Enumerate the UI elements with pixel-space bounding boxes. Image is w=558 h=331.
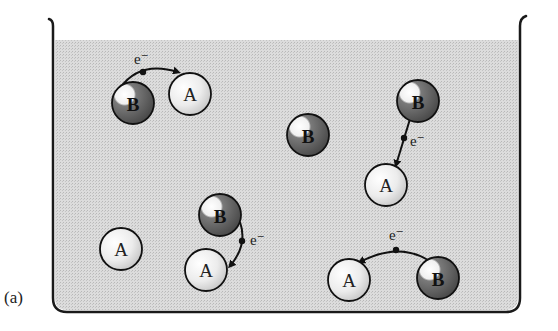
svg-text:B: B — [432, 269, 445, 290]
svg-text:A: A — [199, 260, 213, 281]
particle-B: B — [397, 80, 439, 122]
particle-B: B — [199, 194, 241, 236]
electron-label: e⁻ — [410, 133, 425, 149]
svg-text:B: B — [127, 94, 140, 115]
electron-label: e⁻ — [134, 51, 149, 67]
svg-text:B: B — [412, 92, 425, 113]
svg-text:A: A — [114, 239, 128, 260]
svg-text:A: A — [183, 84, 197, 105]
svg-text:B: B — [302, 126, 315, 147]
particle-A: A — [169, 73, 211, 115]
particle-A: A — [100, 228, 142, 270]
svg-text:A: A — [342, 270, 356, 291]
svg-text:A: A — [379, 175, 393, 196]
svg-text:B: B — [214, 206, 227, 227]
panel-label: (a) — [4, 288, 23, 307]
particle-A: A — [365, 164, 407, 206]
electron-label: e⁻ — [250, 232, 265, 248]
particle-B: B — [417, 257, 459, 299]
electron-label: e⁻ — [389, 227, 404, 243]
particle-A: A — [185, 249, 227, 291]
particle-A: A — [328, 259, 370, 301]
particle-B: B — [112, 82, 154, 124]
electron-transfer-diagram: e⁻ e⁻ e⁻ e⁻ B A B B A B A A A B (a) — [0, 0, 558, 331]
particle-B: B — [287, 114, 329, 156]
